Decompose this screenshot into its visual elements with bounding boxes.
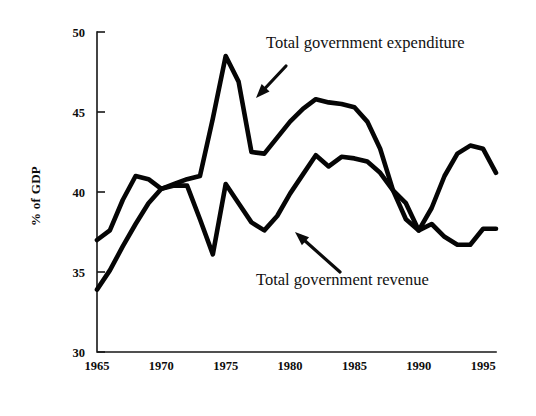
series-line-total-government-expenditure xyxy=(97,56,496,240)
x-tick-label: 1975 xyxy=(213,359,238,373)
x-tick-label: 1965 xyxy=(85,359,110,373)
y-axis-ticks xyxy=(97,32,105,352)
x-tick-label: 1985 xyxy=(342,359,367,373)
y-axis-tick-labels: 3035404550 xyxy=(73,26,86,360)
x-tick-label: 1995 xyxy=(471,359,496,373)
chart-page: 3035404550 1965197019751980198519901995 … xyxy=(0,0,536,416)
annotation-label: Total government expenditure xyxy=(266,33,465,52)
y-tick-label: 40 xyxy=(73,186,86,200)
x-tick-label: 1980 xyxy=(278,359,303,373)
y-tick-label: 50 xyxy=(73,26,86,40)
annotation-label: Total government revenue xyxy=(256,270,429,289)
y-tick-label: 45 xyxy=(73,106,86,120)
x-tick-label: 1970 xyxy=(149,359,174,373)
line-chart: 3035404550 1965197019751980198519901995 … xyxy=(0,0,536,416)
x-axis-tick-labels: 1965197019751980198519901995 xyxy=(85,359,496,373)
annotation-arrow-shaft xyxy=(264,66,286,90)
y-tick-label: 30 xyxy=(73,346,86,360)
x-tick-label: 1990 xyxy=(406,359,431,373)
y-axis-title: % of GDP xyxy=(28,166,43,226)
annotation-arrow-shaft xyxy=(303,239,340,272)
data-series-group xyxy=(97,56,496,290)
y-tick-label: 35 xyxy=(73,266,86,280)
